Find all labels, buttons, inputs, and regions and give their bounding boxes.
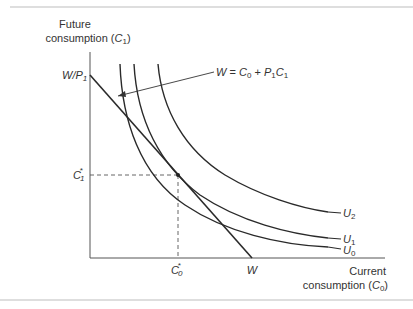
y-axis-label-line1: Future [59, 18, 91, 30]
indifference-curve-u0 [120, 64, 328, 247]
optimum-point [176, 173, 180, 177]
x-intercept-label: W [247, 264, 259, 276]
intertemporal-choice-diagram: Future consumption (C1) Current consumpt… [0, 0, 413, 309]
c0-star-label: C0* [171, 261, 183, 278]
budget-equation: W = C0 + P1C1 [216, 66, 289, 80]
y-axis-label-line2: consumption (C1) [45, 32, 130, 46]
u2-leader [328, 212, 341, 213]
u1-leader [328, 238, 341, 239]
equation-pointer [118, 72, 214, 96]
x-axis-label-line1: Current [349, 265, 386, 277]
c1-star-label: C1* [73, 166, 84, 183]
x-axis-label-line2: consumption (C0) [303, 279, 388, 293]
indifference-curve-u2 [158, 64, 328, 212]
u2-label: U2 [343, 207, 356, 221]
u0-leader [328, 247, 341, 249]
budget-line [90, 75, 252, 258]
y-intercept-label: W/P1 [62, 69, 87, 83]
